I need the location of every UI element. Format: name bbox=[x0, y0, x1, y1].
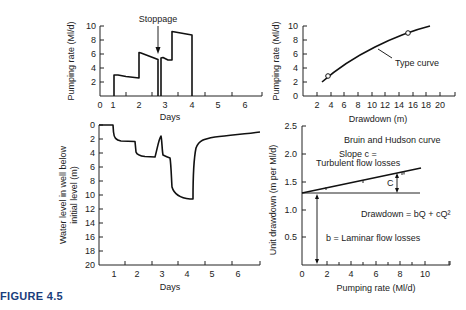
bl-xlabel: Days bbox=[160, 282, 181, 292]
chart-pumping-history: 10 8 6 4 2 0 1 2 3 4 5 6 Days Pumping ra… bbox=[66, 14, 262, 122]
c-label: C bbox=[387, 178, 394, 188]
stoppage-label: Stoppage bbox=[139, 14, 178, 24]
bl-xtick-3: 3 bbox=[159, 269, 164, 279]
tl-ytick-6: 6 bbox=[91, 49, 96, 59]
bl-ytick-14: 14 bbox=[85, 218, 95, 228]
bl-ytick-20: 20 bbox=[85, 260, 95, 270]
tr-xtick-2: 2 bbox=[314, 100, 319, 110]
tl-xtick-3: 3 bbox=[162, 100, 167, 110]
tl-ytick-4: 4 bbox=[91, 63, 96, 73]
tl-ytick-10: 10 bbox=[86, 21, 96, 31]
tr-xtick-18: 18 bbox=[421, 100, 431, 110]
br-ytick-2.0: 2.0 bbox=[284, 149, 297, 159]
equation-label: Drawdown = bQ + cQ² bbox=[361, 209, 451, 219]
bl-ylabel-line2: initial level (m) bbox=[69, 166, 79, 224]
br-ytick-1.0: 1.0 bbox=[284, 205, 297, 215]
axes bbox=[302, 126, 450, 265]
bl-ytick-10: 10 bbox=[85, 190, 95, 200]
tr-ytick-4: 4 bbox=[293, 63, 298, 73]
tr-xtick-10: 10 bbox=[367, 100, 377, 110]
br-xtick-8: 8 bbox=[397, 269, 402, 279]
type-curve-label: Type curve bbox=[395, 58, 439, 68]
tl-xlabel: Days bbox=[160, 112, 181, 122]
br-xtick-0: 0 bbox=[299, 269, 304, 279]
tl-xtick-0: 0 bbox=[97, 100, 102, 110]
br-xtick-4: 4 bbox=[348, 269, 353, 279]
tr-xtick-8: 8 bbox=[355, 100, 360, 110]
br-ytick-0.5: 0.5 bbox=[284, 232, 297, 242]
stoppage-arrow-head-icon bbox=[156, 47, 161, 54]
tr-xtick-16: 16 bbox=[408, 100, 418, 110]
br-ylabel: Unit drawdown (m per Ml/d) bbox=[268, 145, 278, 256]
unit-drawdown-line bbox=[302, 168, 421, 193]
tl-ytick-2: 2 bbox=[91, 77, 96, 87]
turbulent-label: Turbulent flow losses bbox=[316, 158, 401, 168]
bl-xtick-2: 2 bbox=[134, 269, 139, 279]
tr-ytick-0: 0 bbox=[293, 91, 298, 101]
bl-xtick-1: 1 bbox=[111, 269, 116, 279]
figure-canvas: 10 8 6 4 2 0 1 2 3 4 5 6 Days Pumping ra… bbox=[0, 0, 466, 310]
br-xlabel: Pumping rate (Ml/d) bbox=[336, 283, 415, 293]
tr-xtick-6: 6 bbox=[341, 100, 346, 110]
figure-label: FIGURE 4.5 bbox=[0, 290, 63, 302]
tl-xtick-6: 6 bbox=[242, 100, 247, 110]
bl-ytick-6: 6 bbox=[90, 162, 95, 172]
type-curve-leader bbox=[378, 49, 392, 58]
bruin-hudson-label: Bruin and Hudson curve bbox=[344, 135, 441, 145]
bl-ytick-0: 0 bbox=[90, 120, 95, 130]
bl-ytick-12: 12 bbox=[85, 204, 95, 214]
tl-xtick-4: 4 bbox=[189, 100, 194, 110]
bl-ytick-16: 16 bbox=[85, 232, 95, 242]
observed-point-1 bbox=[326, 74, 331, 79]
bl-ylabel-line1: Water level in well below bbox=[58, 145, 68, 244]
axes bbox=[100, 26, 262, 96]
br-ytick-1.5: 1.5 bbox=[284, 177, 297, 187]
chart-type-curve: 10 8 6 4 2 0 2 4 6 8 10 12 14 16 18 20 D… bbox=[271, 21, 455, 124]
tr-ytick-6: 6 bbox=[293, 49, 298, 59]
tr-xtick-20: 20 bbox=[435, 100, 445, 110]
tl-ylabel: Pumping rate (Ml/d) bbox=[66, 21, 76, 100]
tr-ytick-2: 2 bbox=[293, 77, 298, 87]
water-level-curve bbox=[99, 125, 260, 199]
tr-ytick-8: 8 bbox=[293, 35, 298, 45]
br-xtick-2: 2 bbox=[324, 269, 329, 279]
tr-xtick-12: 12 bbox=[380, 100, 390, 110]
bl-xtick-4: 4 bbox=[184, 269, 189, 279]
tl-ytick-8: 8 bbox=[91, 35, 96, 45]
br-xtick-10: 10 bbox=[420, 269, 430, 279]
tr-xtick-4: 4 bbox=[328, 100, 333, 110]
bl-xtick-5: 5 bbox=[209, 269, 214, 279]
observed-point-2 bbox=[406, 31, 411, 36]
tl-xtick-1: 1 bbox=[110, 100, 115, 110]
type-curve-line bbox=[322, 26, 430, 82]
br-ytick-2.5: 2.5 bbox=[284, 121, 297, 131]
tr-xtick-14: 14 bbox=[394, 100, 404, 110]
bl-ytick-8: 8 bbox=[90, 176, 95, 186]
chart-unit-drawdown: 2.5 2.0 1.5 1.0 0.5 0 2 4 6 8 10 Pumping… bbox=[268, 121, 451, 293]
tr-xlabel: Drawdown (m) bbox=[349, 114, 408, 124]
pumping-rate-line bbox=[114, 32, 192, 97]
br-xtick-6: 6 bbox=[373, 269, 378, 279]
laminar-label: b = Laminar flow losses bbox=[326, 233, 421, 243]
chart-water-level: 0 2 4 6 8 10 12 14 16 18 20 1 2 3 4 5 6 … bbox=[58, 120, 260, 292]
axes bbox=[99, 125, 260, 265]
tr-ytick-10: 10 bbox=[288, 21, 298, 31]
tl-xtick-5: 5 bbox=[215, 100, 220, 110]
tr-ylabel: Pumping rate (Ml/d) bbox=[271, 21, 281, 100]
bl-ytick-4: 4 bbox=[90, 148, 95, 158]
bl-ytick-18: 18 bbox=[85, 246, 95, 256]
tl-xtick-2: 2 bbox=[136, 100, 141, 110]
bl-ytick-2: 2 bbox=[90, 134, 95, 144]
bl-xtick-6: 6 bbox=[235, 269, 240, 279]
